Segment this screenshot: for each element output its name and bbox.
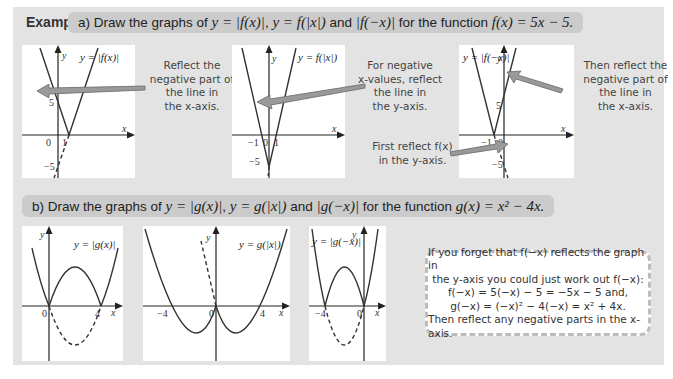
- tick-x-0: 0: [357, 308, 362, 319]
- part-a-header: a) Draw the graphs of y = |f(x)|, y = f(…: [68, 12, 583, 33]
- tick-x-1: 1: [274, 137, 279, 148]
- tip-line: the y-axis you could just work out f(−x)…: [432, 273, 643, 287]
- part-a-eq1: y = |f(x)|: [212, 14, 265, 31]
- part-a-sep1: ,: [265, 15, 269, 30]
- graph-g-abs-x-plot: y x −4 0 4 y = g(|x|): [143, 226, 290, 361]
- graph-f-abs-x: y x −5 −1 0 1 y = f(|x|): [232, 45, 345, 178]
- x-axis-label: x: [121, 123, 127, 134]
- graph-abs-f-plot: y x 5 −5 0 1 y = |f(x)|: [22, 45, 135, 178]
- part-a-prefix: a) Draw the graphs of: [78, 15, 208, 30]
- tick-x-neg4: −4: [157, 308, 168, 319]
- tick-x-0: 0: [42, 308, 47, 319]
- tip-line: Then reflect any negative parts in the x…: [428, 313, 648, 340]
- tick-x-0: 0: [209, 308, 214, 319]
- tick-x-1: 1: [62, 137, 67, 148]
- tip-line: If you forget that f(−x) reflects the gr…: [428, 246, 648, 273]
- part-a-eq3: |f(−x)|: [356, 14, 395, 31]
- graph-title: y = f(|x|): [297, 51, 337, 64]
- graph-abs-g: y x 0 4 y = |g(x)|: [22, 226, 123, 361]
- x-axis-label: x: [374, 307, 380, 318]
- tip-line: f(−x) = 5(−x) − 5 = −5x − 5 and,: [448, 286, 628, 300]
- graph-abs-f-neg-x-plot: y x 5 −5 −1 0 y = |f(−x)|: [459, 45, 574, 178]
- tick-y-neg5: −5: [249, 156, 260, 167]
- part-b-prefix: b) Draw the graphs of: [32, 199, 162, 214]
- graph-title: y = |g(x)|: [73, 238, 116, 251]
- annotation-a3-top: Then reflect the negative part of the li…: [578, 59, 673, 113]
- tip-line: g(−x) = (−x)² − 4(−x) = x² + 4x.: [450, 300, 626, 314]
- arrow-icon: [35, 84, 155, 98]
- graph-f-abs-x-plot: y x −5 −1 0 1 y = f(|x|): [232, 45, 345, 178]
- x-axis-label: x: [278, 307, 284, 318]
- part-a-suffix: for the function: [395, 15, 492, 30]
- graph-abs-f: y x 5 −5 0 1 y = |f(x)|: [22, 45, 135, 178]
- part-b-eq2: y = g(|x|): [230, 198, 287, 215]
- arrow-icon: [505, 69, 565, 95]
- tick-x-neg1: −1: [248, 137, 259, 148]
- x-axis-label: x: [110, 307, 116, 318]
- graph-abs-f-neg-x: y x 5 −5 −1 0 y = |f(−x)|: [459, 45, 574, 178]
- graph-abs-g-plot: y x 0 4 y = |g(x)|: [22, 226, 123, 361]
- tick-y-neg5: −5: [492, 159, 503, 170]
- tick-x-0: 0: [263, 137, 268, 148]
- x-axis-label: x: [560, 123, 566, 134]
- tick-x-neg4: −4: [315, 308, 326, 319]
- tick-x-4: 4: [95, 308, 100, 319]
- tick-x-4: 4: [260, 308, 265, 319]
- part-a-mid: and: [326, 15, 356, 30]
- y-axis-label: y: [205, 232, 211, 243]
- part-b-eq1: y = |g(x)|: [166, 198, 223, 215]
- part-b-header: b) Draw the graphs of y = |g(x)|, y = g(…: [22, 195, 554, 217]
- annotation-a2: For negative x-values, reflect the line …: [350, 59, 450, 113]
- graph-title: y = |g(−x)|: [311, 235, 361, 248]
- graph-title: y = g(|x|): [238, 238, 281, 251]
- annotation-a3-bottom: First reflect f(x) in the y-axis.: [365, 140, 460, 167]
- graph-title: y = |f(−x)|: [462, 51, 510, 64]
- tick-y-5: 5: [49, 97, 54, 108]
- part-b-func: g(x) = x² − 4x.: [456, 198, 544, 215]
- y-axis-label: y: [39, 229, 45, 240]
- tick-y-neg5: −5: [44, 161, 55, 172]
- tick-y-5: 5: [496, 100, 501, 111]
- part-b-suffix: for the function: [359, 199, 456, 214]
- part-a-eq2: y = f(|x|): [272, 14, 325, 31]
- part-b-mid: and: [286, 199, 316, 214]
- x-axis-label: x: [331, 123, 337, 134]
- graph-abs-g-neg-x-plot: y x −4 0 y = |g(−x)|: [309, 226, 386, 361]
- y-axis-label: y: [61, 50, 67, 61]
- part-b-sep1: ,: [222, 199, 226, 214]
- part-b-eq3: |g(−x)|: [317, 198, 360, 215]
- tick-x-0: 0: [46, 137, 51, 148]
- y-axis-label: y: [271, 53, 277, 64]
- part-a-func: f(x) = 5x − 5.: [492, 14, 573, 31]
- tip-box: If you forget that f(−x) reflects the gr…: [425, 250, 651, 336]
- graph-g-abs-x: y x −4 0 4 y = g(|x|): [143, 226, 290, 361]
- annotation-a1: Reflect the negative part of the line in…: [142, 59, 242, 113]
- graph-title: y = |f(x)|: [79, 51, 119, 64]
- graph-abs-g-neg-x: y x −4 0 y = |g(−x)|: [309, 226, 386, 361]
